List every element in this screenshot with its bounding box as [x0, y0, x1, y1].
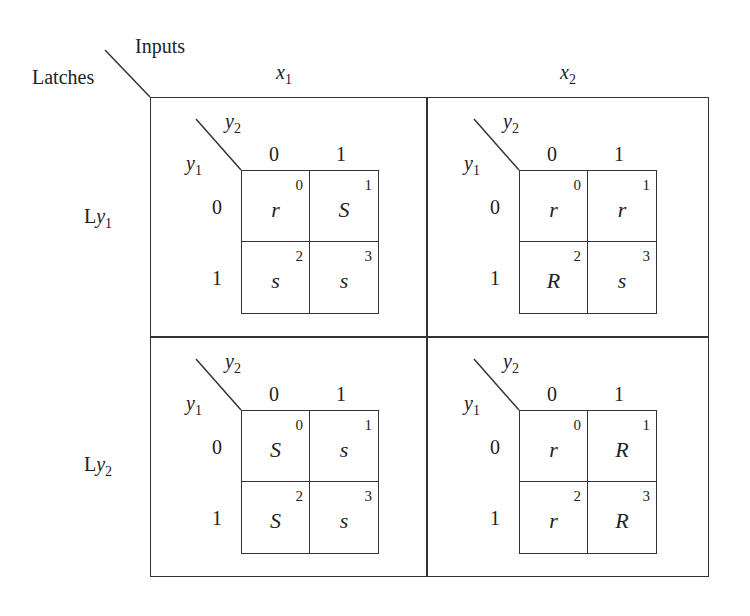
column-header-x1: x1 — [276, 62, 292, 82]
cell-value: s — [588, 268, 656, 294]
kmap-ly1-x2: y2 y1 0 1 0 1 r 0 r 1 R 2 s 3 — [428, 97, 703, 337]
kmap-row-header-1: 1 — [490, 508, 500, 528]
kmap-cell: r 2 — [520, 482, 588, 553]
kmap-cell: r 0 — [520, 411, 588, 482]
cell-index: 1 — [643, 417, 651, 434]
kmap-col-header-1: 1 — [614, 384, 624, 404]
cell-index: 1 — [365, 177, 373, 194]
row-header-ly1: Ly1 — [84, 206, 112, 226]
cell-value: S — [310, 197, 378, 223]
row-header-ly2: Ly2 — [84, 454, 112, 474]
kmap-cell: r 1 — [588, 171, 656, 242]
kmap-col-header-1: 1 — [336, 384, 346, 404]
kmap-grid: r 0 r 1 R 2 s 3 — [519, 170, 657, 314]
cell-value: R — [588, 437, 656, 463]
cell-value: s — [310, 437, 378, 463]
cell-index: 3 — [643, 248, 651, 265]
kmap-row-header-1: 1 — [212, 268, 222, 288]
kmap-col-var: y2 — [225, 351, 241, 371]
kmap-col-header-0: 0 — [547, 384, 557, 404]
kmap-grid: S 0 s 1 S 2 s 3 — [241, 410, 379, 554]
kmap-diagonal — [194, 357, 254, 417]
cell-index: 2 — [296, 488, 304, 505]
latches-label: Latches — [32, 67, 94, 87]
kmap-row-header-0: 0 — [490, 437, 500, 457]
kmap-col-header-1: 1 — [336, 144, 346, 164]
cell-index: 0 — [296, 177, 304, 194]
cell-index: 1 — [643, 177, 651, 194]
kmap-diagonal — [472, 357, 532, 417]
kmap-diagonal — [194, 117, 254, 177]
kmap-grid: r 0 S 1 s 2 s 3 — [241, 170, 379, 314]
kmap-ly1-x1: y2 y1 0 1 0 1 r 0 S 1 s 2 s 3 — [150, 97, 425, 337]
cell-index: 2 — [574, 248, 582, 265]
cell-value: S — [242, 508, 309, 534]
cell-value: R — [588, 508, 656, 534]
kmap-row-var: y1 — [186, 393, 202, 413]
cell-value: r — [520, 508, 587, 534]
kmap-cell: r 0 — [242, 171, 310, 242]
cell-index: 2 — [296, 248, 304, 265]
cell-index: 0 — [574, 177, 582, 194]
kmap-diagonal — [472, 117, 532, 177]
cell-value: r — [588, 197, 656, 223]
kmap-grid: r 0 R 1 r 2 R 3 — [519, 410, 657, 554]
cell-index: 2 — [574, 488, 582, 505]
kmap-row-header-0: 0 — [212, 197, 222, 217]
cell-value: r — [242, 197, 309, 223]
cell-value: r — [520, 437, 587, 463]
kmap-cell: s 3 — [310, 482, 378, 553]
cell-value: r — [520, 197, 587, 223]
kmap-cell: s 3 — [310, 242, 378, 313]
kmap-col-var: y2 — [503, 111, 519, 131]
kmap-ly2-x2: y2 y1 0 1 0 1 r 0 R 1 r 2 R 3 — [428, 337, 703, 577]
cell-index: 0 — [296, 417, 304, 434]
kmap-cell: r 0 — [520, 171, 588, 242]
cell-index: 0 — [574, 417, 582, 434]
kmap-cell: s 2 — [242, 242, 310, 313]
kmap-col-var: y2 — [225, 111, 241, 131]
column-header-x2: x2 — [560, 62, 576, 82]
cell-index: 1 — [365, 417, 373, 434]
kmap-row-header-1: 1 — [212, 508, 222, 528]
kmap-row-var: y1 — [186, 153, 202, 173]
cell-index: 3 — [643, 488, 651, 505]
kmap-cell: S 1 — [310, 171, 378, 242]
kmap-row-header-0: 0 — [212, 437, 222, 457]
kmap-cell: S 2 — [242, 482, 310, 553]
kmap-row-var: y1 — [464, 393, 480, 413]
kmap-col-header-0: 0 — [269, 144, 279, 164]
kmap-col-header-0: 0 — [547, 144, 557, 164]
kmap-col-header-1: 1 — [614, 144, 624, 164]
kmap-ly2-x1: y2 y1 0 1 0 1 S 0 s 1 S 2 s 3 — [150, 337, 425, 577]
cell-value: s — [310, 508, 378, 534]
kmap-cell: R 2 — [520, 242, 588, 313]
kmap-row-var: y1 — [464, 153, 480, 173]
kmap-cell: R 1 — [588, 411, 656, 482]
kmap-row-header-1: 1 — [490, 268, 500, 288]
kmap-col-header-0: 0 — [269, 384, 279, 404]
kmap-col-var: y2 — [503, 351, 519, 371]
cell-value: R — [520, 268, 587, 294]
kmap-cell: s 1 — [310, 411, 378, 482]
cell-value: s — [242, 268, 309, 294]
corner-diagonal — [100, 45, 160, 105]
cell-index: 3 — [365, 248, 373, 265]
cell-index: 3 — [365, 488, 373, 505]
kmap-cell: R 3 — [588, 482, 656, 553]
kmap-cell: S 0 — [242, 411, 310, 482]
cell-value: s — [310, 268, 378, 294]
kmap-row-header-0: 0 — [490, 197, 500, 217]
kmap-cell: s 3 — [588, 242, 656, 313]
cell-value: S — [242, 437, 309, 463]
